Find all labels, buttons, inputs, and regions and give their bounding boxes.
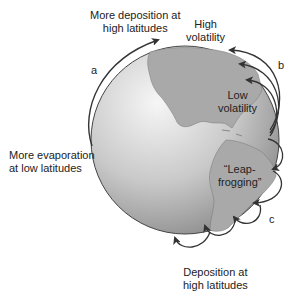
path-letter-c: c (269, 213, 275, 226)
globe-diagram (0, 0, 295, 293)
path-letter-b: b (278, 59, 284, 72)
label-line: Low (218, 89, 257, 102)
label-line: frogging” (218, 176, 261, 189)
label-more-evaporation: More evaporation at low latitudes (9, 149, 95, 175)
label-line: high latitudes (183, 279, 248, 292)
path-letter-a: a (91, 64, 97, 77)
label-line: “Leap- (218, 163, 261, 176)
label-line: volatility (218, 102, 257, 115)
label-line: Deposition at (183, 266, 248, 279)
label-deposition-high-latitudes: Deposition at high latitudes (183, 266, 248, 292)
label-more-deposition: More deposition at high latitudes (90, 9, 181, 35)
label-low-volatility: Low volatility (218, 89, 257, 115)
label-line: More deposition at (90, 9, 181, 22)
label-line: at low latitudes (9, 162, 95, 175)
label-high-volatility: High volatility (186, 18, 225, 44)
label-line: high latitudes (90, 22, 181, 35)
globe (91, 46, 279, 234)
label-line: volatility (186, 31, 225, 44)
label-line: More evaporation (9, 149, 95, 162)
label-line: High (186, 18, 225, 31)
label-leapfrogging: “Leap- frogging” (218, 163, 261, 189)
